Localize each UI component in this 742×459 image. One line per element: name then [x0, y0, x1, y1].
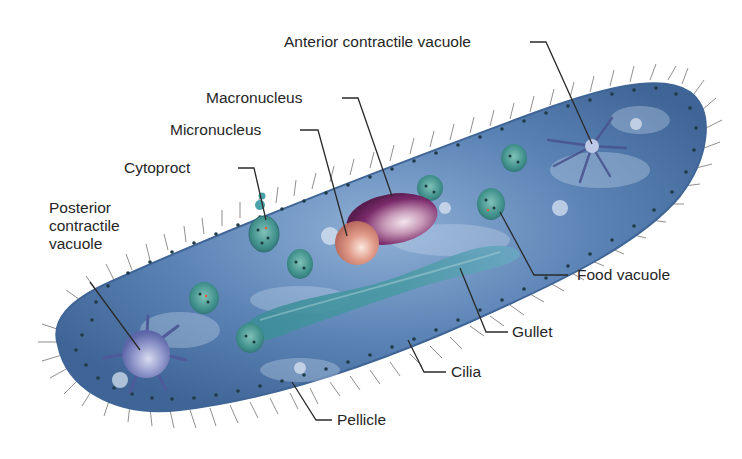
label-pellicle: Pellicle	[337, 411, 386, 429]
leader-pellicle	[292, 382, 332, 420]
paramecium-diagram: Anterior contractile vacuole Macronucleu…	[0, 0, 742, 459]
label-line-1: Posterior	[49, 199, 120, 217]
label-gullet: Gullet	[512, 323, 553, 341]
label-cytoproct: Cytoproct	[124, 159, 190, 177]
label-line-3: vacuole	[49, 235, 120, 253]
label-cilia: Cilia	[451, 363, 481, 381]
label-anterior-contractile-vacuole: Anterior contractile vacuole	[284, 33, 471, 51]
label-line-2: contractile	[49, 217, 120, 235]
label-macronucleus: Macronucleus	[206, 89, 303, 107]
label-micronucleus: Micronucleus	[170, 121, 261, 139]
micronucleus	[335, 221, 379, 265]
label-posterior-contractile-vacuole: Posterior contractile vacuole	[49, 199, 120, 253]
label-food-vacuole: Food vacuole	[577, 266, 670, 284]
